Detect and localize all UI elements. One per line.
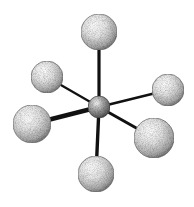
- ligand-atom-upper-right: [152, 74, 184, 106]
- central-atom-sphere: [88, 96, 110, 118]
- ligand-atom-lower-left: [13, 105, 51, 143]
- central-atom: [88, 96, 110, 118]
- ligand-atom-lower-right: [134, 118, 174, 158]
- ligand-atom-bottom: [78, 156, 114, 192]
- octahedral-molecule-diagram: [0, 0, 194, 207]
- ligand-atom-upper-left: [31, 61, 63, 93]
- ligand-atom-top: [81, 14, 117, 50]
